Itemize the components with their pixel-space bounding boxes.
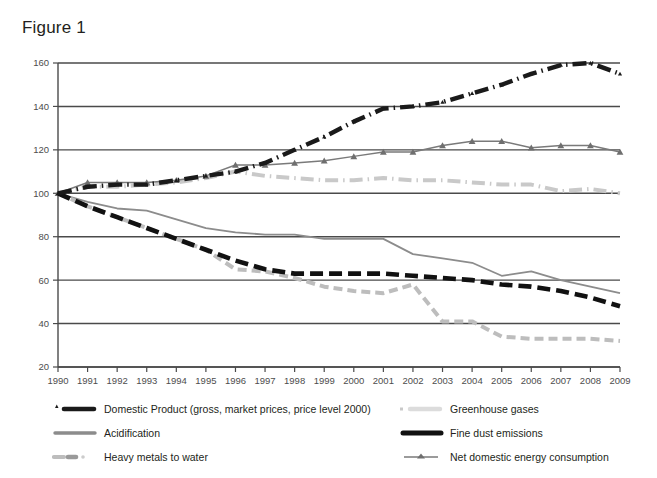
line-chart: 2040608010012014016019901991199219931994… — [0, 46, 657, 391]
x-axis-tick-label: 1999 — [314, 375, 335, 386]
x-axis-tick-label: 2007 — [550, 375, 571, 386]
legend-swatch-net-domestic-energy-consumption — [398, 450, 444, 464]
x-axis-tick-label: 1993 — [136, 375, 157, 386]
x-axis-tick-label: 2004 — [462, 375, 483, 386]
x-axis-tick-label: 2005 — [491, 375, 512, 386]
x-axis-tick-label: 1991 — [77, 375, 98, 386]
x-axis-tick-label: 2008 — [580, 375, 601, 386]
x-axis-tick-label: 2002 — [402, 375, 423, 386]
chart-legend: Domestic Product (gross, market prices, … — [0, 398, 657, 476]
y-axis-tick-label: 20 — [38, 361, 49, 372]
figure-container: Figure 1 2040608010012014016019901991199… — [0, 0, 657, 478]
legend-item-greenhouse-gases[interactable]: Greenhouse gases — [398, 398, 648, 420]
x-axis-tick-label: 2006 — [521, 375, 542, 386]
x-axis-tick-label: 2009 — [609, 375, 630, 386]
x-axis-tick-label: 1997 — [254, 375, 275, 386]
x-axis-tick-label: 1995 — [195, 375, 216, 386]
legend-label-net-domestic-energy-consumption: Net domestic energy consumption — [450, 452, 609, 463]
x-axis-tick-label: 1998 — [284, 375, 305, 386]
y-axis-tick-label: 40 — [38, 318, 49, 329]
x-axis-tick-label: 1992 — [107, 375, 128, 386]
legend-swatch-acidification — [52, 426, 98, 440]
y-axis-tick-label: 160 — [33, 57, 49, 68]
legend-swatch-domestic-product — [52, 402, 98, 416]
legend-swatch-fine-dust-emissions — [398, 426, 444, 440]
series-marker — [470, 91, 474, 95]
y-axis-tick-label: 80 — [38, 231, 49, 242]
legend-label-acidification: Acidification — [104, 428, 160, 439]
y-axis-tick-label: 120 — [33, 144, 49, 155]
series-marker — [618, 72, 622, 76]
x-axis-tick-label: 2000 — [343, 375, 364, 386]
series-marker — [322, 135, 326, 139]
legend-item-net-domestic-energy-consumption[interactable]: Net domestic energy consumption — [398, 446, 648, 468]
legend-swatch-greenhouse-gases — [398, 402, 444, 416]
figure-title: Figure 1 — [22, 18, 86, 38]
x-axis-tick-label: 1996 — [225, 375, 246, 386]
series-line — [58, 193, 620, 341]
legend-item-fine-dust-emissions[interactable]: Fine dust emissions — [398, 422, 648, 444]
legend-label-domestic-product: Domestic Product (gross, market prices, … — [104, 404, 371, 415]
series-line — [58, 63, 620, 193]
x-axis-tick-label: 2001 — [373, 375, 394, 386]
legend-label-fine-dust-emissions: Fine dust emissions — [450, 428, 543, 439]
legend-label-greenhouse-gases: Greenhouse gases — [450, 404, 539, 415]
x-axis-tick-label: 1994 — [166, 375, 187, 386]
y-axis-tick-label: 60 — [38, 275, 49, 286]
x-axis-tick-label: 2003 — [432, 375, 453, 386]
legend-item-acidification[interactable]: Acidification — [52, 422, 402, 444]
chart-plot-area: 2040608010012014016019901991199219931994… — [0, 46, 657, 391]
y-axis-tick-label: 100 — [33, 188, 49, 199]
series-line — [58, 193, 620, 293]
legend-item-heavy-metals-to-water[interactable]: Heavy metals to water — [52, 446, 402, 468]
y-axis-tick-label: 140 — [33, 101, 49, 112]
legend-swatch-heavy-metals-to-water — [52, 450, 98, 464]
legend-label-heavy-metals-to-water: Heavy metals to water — [104, 452, 208, 463]
legend-item-domestic-product[interactable]: Domestic Product (gross, market prices, … — [52, 398, 402, 420]
x-axis-tick-label: 1990 — [47, 375, 68, 386]
